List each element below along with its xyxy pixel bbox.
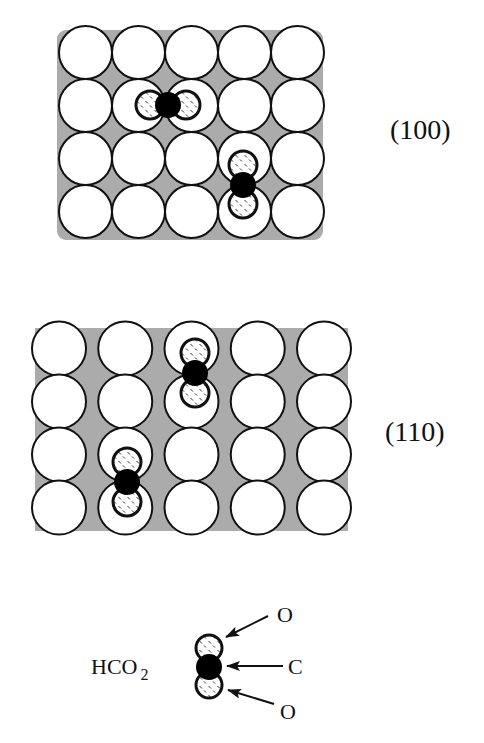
substrate-atom bbox=[59, 26, 112, 79]
adsorption-diagram bbox=[0, 0, 484, 743]
substrate-atom bbox=[165, 481, 219, 535]
callout-label-oxygen-top: O bbox=[277, 604, 293, 626]
substrate-atom bbox=[165, 132, 218, 185]
substrate-atom bbox=[231, 428, 285, 482]
carbon-atom bbox=[182, 360, 208, 386]
substrate-atom bbox=[112, 132, 165, 185]
substrate-atom bbox=[59, 79, 112, 132]
substrate-atom bbox=[218, 79, 271, 132]
legend-formula: HCO2 bbox=[91, 656, 148, 683]
callout-arrow bbox=[228, 690, 274, 704]
formula-subscript: 2 bbox=[140, 666, 148, 683]
hco2-adsorbate bbox=[136, 91, 200, 119]
carbon-atom bbox=[230, 172, 256, 198]
substrate-atom bbox=[32, 481, 86, 535]
substrate-atom bbox=[59, 132, 112, 185]
substrate-atom bbox=[271, 185, 324, 238]
carbon-atom bbox=[196, 654, 222, 680]
substrate-atom bbox=[231, 322, 285, 376]
callout-arrow bbox=[226, 616, 268, 637]
hco2-adsorbate bbox=[113, 448, 141, 516]
carbon-atom bbox=[114, 469, 140, 495]
legend-molecule bbox=[196, 616, 283, 704]
substrate-atom bbox=[271, 26, 324, 79]
substrate-atom bbox=[112, 185, 165, 238]
surface-label-100: (100) bbox=[390, 116, 451, 144]
substrate-atom bbox=[271, 79, 324, 132]
substrate-atom bbox=[297, 375, 351, 429]
substrate-atom bbox=[231, 481, 285, 535]
substrate-atom bbox=[98, 375, 152, 429]
substrate-atom bbox=[297, 322, 351, 376]
substrate-atom bbox=[112, 26, 165, 79]
substrate-atom bbox=[165, 428, 219, 482]
substrate-atom bbox=[231, 375, 285, 429]
substrate-atom bbox=[271, 132, 324, 185]
substrate-atom bbox=[32, 322, 86, 376]
callout-label-oxygen-bottom: O bbox=[280, 701, 296, 723]
substrate-atom bbox=[297, 428, 351, 482]
surface-100-grid bbox=[57, 26, 324, 240]
hco2-adsorbate bbox=[181, 339, 209, 407]
substrate-atom bbox=[165, 26, 218, 79]
surface-110-grid bbox=[32, 322, 351, 535]
substrate-atom bbox=[98, 322, 152, 376]
substrate-atom bbox=[165, 185, 218, 238]
substrate-atom bbox=[59, 185, 112, 238]
substrate-atom bbox=[297, 481, 351, 535]
substrate-atom bbox=[218, 26, 271, 79]
substrate-atom bbox=[32, 375, 86, 429]
surface-label-110: (110) bbox=[385, 418, 445, 446]
callout-label-carbon: C bbox=[288, 656, 303, 678]
formula-main: HCO bbox=[91, 654, 137, 679]
substrate-atom bbox=[32, 428, 86, 482]
carbon-atom bbox=[155, 92, 181, 118]
hco2-adsorbate bbox=[229, 151, 257, 218]
hco2-adsorbate bbox=[196, 635, 222, 698]
